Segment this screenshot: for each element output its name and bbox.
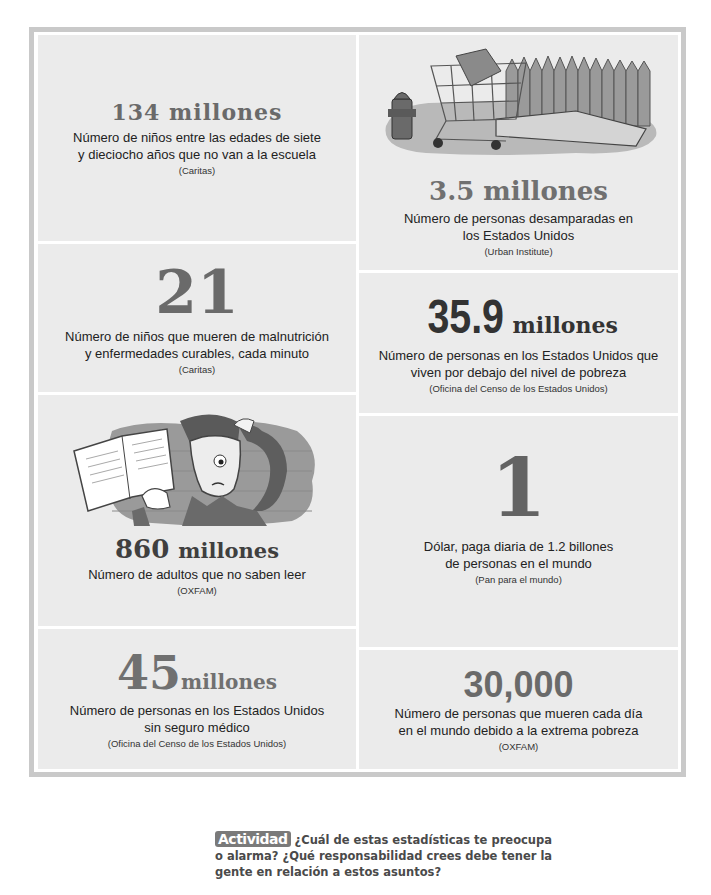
activity-badge: Actividad: [215, 831, 291, 847]
stat-panel-children-out-of-school: 134 millones Número de niños entre las e…: [38, 35, 356, 241]
stat-value: 1: [491, 441, 547, 535]
stat-source: (Oficina del Censo de los Estados Unidos…: [429, 383, 607, 394]
stat-source: (Caritas): [179, 364, 215, 375]
activity-prompt: Actividad¿Cuál de estas estadísticas te …: [215, 831, 555, 880]
stat-number: 45millones: [117, 650, 277, 696]
description-line: sin seguro médico: [70, 719, 324, 736]
stat-description: Número de personas en los Estados Unidos…: [70, 702, 324, 736]
stat-number: 3.5 millones: [429, 178, 608, 204]
stat-description: Número de niños que mueren de malnutrici…: [65, 328, 329, 362]
stat-unit: millones: [483, 176, 608, 206]
description-line: Número de niños que mueren de malnutrici…: [65, 328, 329, 345]
stat-number: 21: [155, 262, 239, 322]
stat-panel-uninsured-us: 45millones Número de personas en los Est…: [38, 629, 356, 769]
stat-panel-homeless-us: 3.5 millones Número de personas desampar…: [359, 35, 678, 270]
stat-panel-one-dollar-daily: 1 Dólar, paga diaria de 1.2 billones de …: [359, 416, 678, 647]
description-line: y enfermedades curables, cada minuto: [65, 345, 329, 362]
description-line: viven por debajo del nivel de pobreza: [379, 364, 659, 381]
description-line: los Estados Unidos: [404, 227, 633, 244]
stat-number: 1: [491, 448, 547, 528]
homeless-scene-illustration: [376, 41, 661, 156]
stat-unit: millones: [178, 538, 279, 563]
description-line: Número de personas en los Estados Unidos: [70, 702, 324, 719]
stat-source: (OXFAM): [177, 585, 217, 596]
stat-value: 134: [111, 99, 160, 125]
stat-source: (OXFAM): [499, 741, 539, 752]
stat-value: 35.9: [427, 293, 504, 341]
stat-source: (Oficina del Censo de los Estados Unidos…: [108, 738, 286, 749]
stat-source: (Caritas): [179, 165, 215, 176]
description-line: de personas en el mundo: [424, 555, 613, 572]
stat-description: Número de personas en los Estados Unidos…: [379, 347, 659, 381]
statistics-grid: 134 millones Número de niños entre las e…: [34, 32, 681, 772]
description-line: Dólar, paga diaria de 1.2 billones: [424, 538, 613, 555]
description-line: Número de personas que mueren cada día: [395, 705, 643, 722]
stat-panel-daily-poverty-deaths: 30,000 Número de personas que mueren cad…: [359, 650, 678, 769]
stat-description: Dólar, paga diaria de 1.2 billones de pe…: [424, 538, 613, 572]
stat-description: Número de adultos que no saben leer: [88, 566, 306, 583]
stat-value: 45: [117, 646, 181, 700]
statistics-frame: 134 millones Número de niños entre las e…: [29, 27, 686, 777]
stat-description: Número de personas desamparadas en los E…: [404, 210, 633, 244]
stat-number: 30,000: [463, 667, 573, 703]
stat-number: 35.9 millones: [419, 293, 618, 341]
stat-description: Número de personas que mueren cada día e…: [395, 705, 643, 739]
description-line: Número de personas en los Estados Unidos…: [379, 347, 659, 364]
stat-value: 3.5: [429, 176, 474, 206]
stat-number: 860 millones: [115, 536, 279, 562]
description-line: Número de personas desamparadas en: [404, 210, 633, 227]
description-line: Número de niños entre las edades de siet…: [73, 129, 321, 146]
stat-unit: millones: [169, 99, 282, 125]
stat-value: 860: [115, 534, 169, 564]
stat-description: Número de niños entre las edades de siet…: [73, 129, 321, 163]
stat-value: 30,000: [463, 664, 573, 705]
description-line: Número de adultos que no saben leer: [88, 566, 306, 583]
stat-unit: millones: [513, 314, 618, 336]
stat-source: (Pan para el mundo): [475, 574, 562, 585]
description-line: en el mundo debido a la extrema pobreza: [395, 722, 643, 739]
stat-panel-poverty-us: 35.9 millones Número de personas en los …: [359, 273, 678, 413]
description-line: y dieciocho años que no van a la escuela: [73, 146, 321, 163]
stat-unit: millones: [181, 670, 277, 694]
stat-source: (Urban Institute): [484, 246, 552, 257]
stat-panel-children-dying-per-minute: 21 Número de niños que mueren de malnutr…: [38, 244, 356, 392]
stat-number: 134 millones: [111, 101, 282, 123]
stat-value: 21: [155, 257, 239, 327]
confused-reader-illustration: [72, 411, 322, 526]
stat-panel-illiterate-adults: 860 millones Número de adultos que no sa…: [38, 395, 356, 626]
